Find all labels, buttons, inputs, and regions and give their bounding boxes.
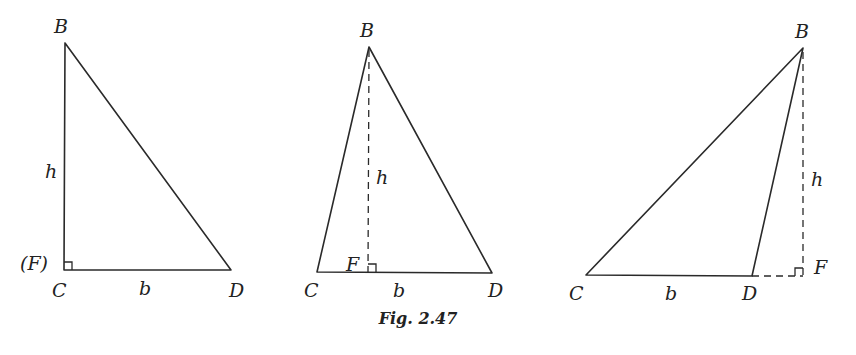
vertex-label-b: B: [794, 20, 809, 42]
vertex-label-c: C: [304, 279, 319, 301]
vertex-label-b: B: [53, 15, 68, 37]
right-angle-marker: [368, 264, 376, 272]
vertex-label-c: C: [52, 279, 67, 301]
triangle-outline: [64, 43, 231, 270]
altitude-line: [368, 50, 369, 272]
vertex-label-d: D: [228, 279, 244, 301]
vertex-label-d: D: [741, 282, 757, 304]
base-label-b: b: [393, 279, 405, 301]
triangle-acute: B h F C b D: [304, 19, 503, 301]
vertex-label-c: C: [569, 282, 584, 304]
base-label-b: b: [665, 282, 677, 304]
height-label-h: h: [376, 166, 388, 188]
foot-label-f: F: [345, 253, 360, 275]
triangle-obtuse: B h F C b D: [569, 20, 828, 304]
height-label-h: h: [811, 168, 823, 190]
right-angle-marker: [64, 262, 72, 270]
triangle-outline: [586, 48, 803, 276]
vertex-label-b: B: [359, 19, 374, 41]
height-label-h: h: [45, 160, 57, 182]
right-angle-marker: [795, 268, 803, 276]
foot-label-f: (F): [20, 252, 48, 274]
triangle-right: B h (F) C b D: [20, 15, 244, 301]
base-label-b: b: [139, 277, 151, 299]
triangle-outline: [317, 47, 492, 273]
vertex-label-d: D: [487, 279, 503, 301]
figure-caption: Fig. 2.47: [378, 309, 458, 328]
foot-label-f: F: [813, 256, 828, 278]
figure-2-47: B h (F) C b D B h F C b D B h F C b D Fi…: [0, 0, 856, 355]
